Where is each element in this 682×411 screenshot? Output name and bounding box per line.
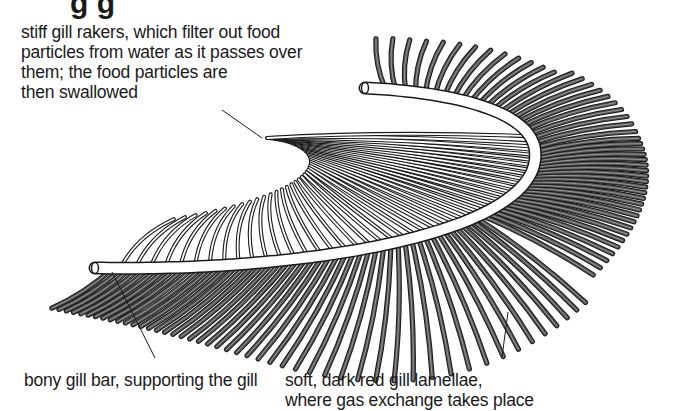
label-line: then swallowed	[21, 82, 302, 102]
label-gill-bar: bony gill bar, supporting the gill	[24, 370, 258, 390]
bar-end-cap	[92, 263, 99, 274]
label-gill-lamellae: soft, dark red gill lamellae, where gas …	[285, 370, 534, 410]
label-gill-rakers: stiff gill rakers, which filter out food…	[21, 22, 302, 102]
label-line: where gas exchange takes place	[285, 390, 534, 410]
label-line: stiff gill rakers, which filter out food	[21, 22, 302, 42]
label-line: bony gill bar, supporting the gill	[24, 370, 258, 390]
leader-rakers	[222, 110, 262, 138]
label-line: them; the food particles are	[21, 62, 302, 82]
bar-end-cap	[362, 83, 369, 94]
label-line: soft, dark red gill lamellae,	[285, 370, 534, 390]
label-line: particles from water as it passes over	[21, 42, 302, 62]
